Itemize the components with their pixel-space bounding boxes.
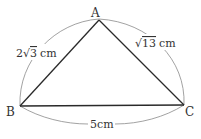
edge-bc xyxy=(20,105,184,106)
edge-ab xyxy=(20,20,99,106)
svg-text:√13cm: √13cm xyxy=(135,37,176,50)
ab-coef: 2 xyxy=(16,47,23,60)
arc-bc-right xyxy=(115,105,184,124)
vertex-label-a: A xyxy=(90,6,100,20)
svg-text:2√3cm: 2√3cm xyxy=(16,47,57,60)
ac-radicand: 13 xyxy=(142,37,156,50)
arc-bc-left xyxy=(20,106,88,124)
ab-unit: cm xyxy=(40,47,57,60)
ab-radicand: 3 xyxy=(30,47,37,60)
vertex-label-b: B xyxy=(6,105,15,119)
side-label-bc: 5cm xyxy=(90,118,114,131)
edge-ac xyxy=(99,20,184,105)
triangle-diagram: A B C 2√3cm √13cm 5cm xyxy=(0,0,201,139)
side-label-ac: √13cm xyxy=(133,34,177,50)
side-label-ab: 2√3cm xyxy=(14,44,60,60)
ac-unit: cm xyxy=(159,37,176,50)
vertex-label-c: C xyxy=(185,105,194,119)
